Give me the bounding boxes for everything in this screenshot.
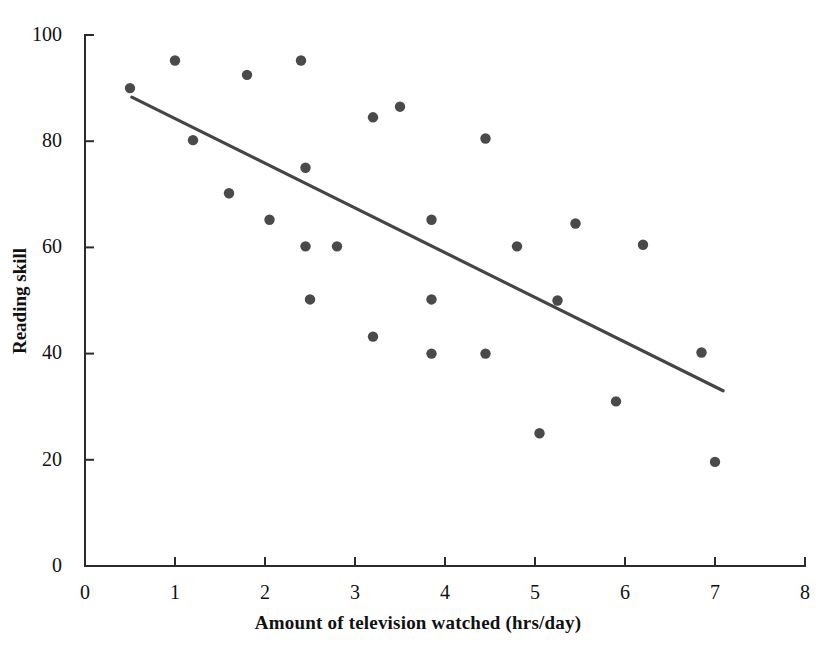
data-point [332,241,342,251]
data-point [696,347,706,357]
data-point [224,188,234,198]
data-point [611,396,621,406]
data-point [125,83,135,93]
data-point [305,294,315,304]
plot-area [0,0,836,656]
data-point [552,295,562,305]
axis-lines [85,35,805,566]
data-point [426,294,436,304]
data-points-group [125,55,720,467]
data-point [480,133,490,143]
data-point [296,55,306,65]
data-point [426,348,436,358]
data-point [368,112,378,122]
trend-line-group [132,97,723,391]
data-point [242,70,252,80]
regression-line [132,97,723,391]
data-point [570,218,580,228]
data-point [512,241,522,251]
data-point [368,331,378,341]
data-point [170,55,180,65]
data-point [300,163,310,173]
tick-marks [85,35,805,566]
data-point [300,241,310,251]
data-point [395,101,405,111]
data-point [480,348,490,358]
data-point [534,428,544,438]
data-point [710,457,720,467]
data-point [638,240,648,250]
data-point [188,135,198,145]
data-point [264,215,274,225]
scatter-plot-figure: Reading skill Amount of television watch… [0,0,836,656]
data-point [426,215,436,225]
